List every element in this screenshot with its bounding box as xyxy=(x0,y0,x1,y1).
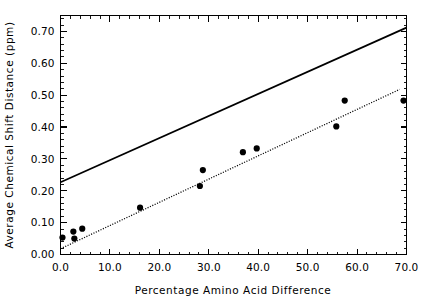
data-point xyxy=(254,145,260,151)
data-point xyxy=(70,228,76,234)
data-point xyxy=(137,205,143,211)
x-tick-label: 40.0 xyxy=(246,261,270,273)
chart-figure: 0.010.020.030.040.050.060.070.0 0.000.10… xyxy=(0,0,421,308)
x-axis-title: Percentage Amino Acid Difference xyxy=(135,284,332,296)
x-tick-label: 50.0 xyxy=(296,261,320,273)
y-tick-label: 0.00 xyxy=(31,248,55,260)
y-axis-minor-ticks xyxy=(61,19,407,255)
y-tick-label: 0.70 xyxy=(31,25,55,37)
x-axis-tick-labels: 0.010.020.030.040.050.060.070.0 xyxy=(52,261,418,273)
y-tick-label: 0.20 xyxy=(31,185,55,197)
data-point xyxy=(59,235,65,241)
x-tick-label: 60.0 xyxy=(345,261,369,273)
y-tick-label: 0.40 xyxy=(31,121,55,133)
y-tick-label: 0.50 xyxy=(31,89,55,101)
upper-solid-line xyxy=(61,28,407,183)
x-tick-label: 20.0 xyxy=(147,261,171,273)
x-tick-label: 30.0 xyxy=(197,261,221,273)
data-point xyxy=(240,149,246,155)
data-point xyxy=(342,97,348,103)
data-point xyxy=(200,167,206,173)
y-tick-label: 0.10 xyxy=(31,216,55,228)
data-point xyxy=(79,226,85,232)
x-tick-label: 70.0 xyxy=(395,261,419,273)
x-tick-label: 10.0 xyxy=(98,261,122,273)
x-tick-label: 0.0 xyxy=(52,261,69,273)
data-point xyxy=(197,183,203,189)
y-axis-title: Average Chemical Shift Distance (ppm) xyxy=(3,21,15,248)
scatter-plot-svg: 0.010.020.030.040.050.060.070.0 0.000.10… xyxy=(0,0,421,308)
y-tick-label: 0.30 xyxy=(31,153,55,165)
data-point xyxy=(400,97,406,103)
fit-lines-group xyxy=(61,28,407,249)
y-axis-tick-labels: 0.000.100.200.300.400.500.600.70 xyxy=(31,25,55,260)
y-tick-label: 0.60 xyxy=(31,57,55,69)
data-point xyxy=(71,235,77,241)
y-axis-major-ticks xyxy=(61,31,407,254)
data-points-group xyxy=(59,97,406,241)
data-point xyxy=(333,123,339,129)
regression-dotted-line xyxy=(61,89,400,248)
